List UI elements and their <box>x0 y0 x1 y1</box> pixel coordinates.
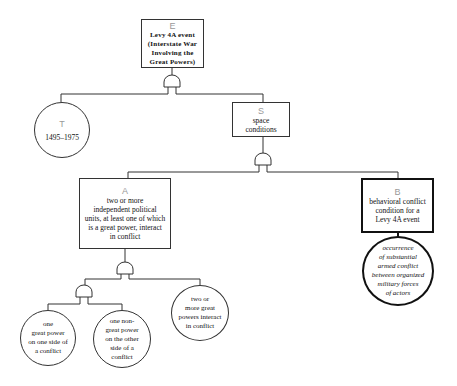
node-text: occurrence of substantial armed conflict… <box>372 244 424 298</box>
node-letter: E <box>169 21 175 31</box>
node-e-levy-4a-event: E Levy 4A event (Interstate War Involvin… <box>141 19 204 68</box>
node-a1-great-power-one-side: one great power on one side of a conflic… <box>20 310 76 366</box>
node-text: one non- great power on the other side o… <box>105 317 138 362</box>
node-a3-great-powers-interact: two or more great powers interact in con… <box>171 285 229 341</box>
node-a-political-units: A two or more independent political unit… <box>79 178 171 249</box>
node-b1-armed-conflict: occurrence of substantial armed conflict… <box>362 236 434 306</box>
node-t-time-period: T 1495–1975 <box>34 102 90 158</box>
node-text: one great power on one side of a conflic… <box>28 320 67 356</box>
node-letter: S <box>258 106 264 116</box>
node-text: two or more independent political units,… <box>85 196 165 241</box>
node-text: two or more great powers interact in con… <box>179 295 222 331</box>
node-text: space conditions <box>245 116 276 134</box>
node-letter: B <box>394 187 400 197</box>
node-letter: A <box>122 186 128 196</box>
node-b-behavioral-conflict: B behavioral conflict condition for a Le… <box>361 178 434 233</box>
node-s-space-conditions: S space conditions <box>232 102 290 137</box>
node-a2-non-great-power-other-side: one non- great power on the other side o… <box>93 310 151 368</box>
node-text: 1495–1975 <box>45 133 79 142</box>
node-letter: T <box>59 119 65 129</box>
node-text: behavioral conflict condition for a Levy… <box>369 197 425 224</box>
node-text: Levy 4A event (Interstate War Involving … <box>148 31 197 67</box>
